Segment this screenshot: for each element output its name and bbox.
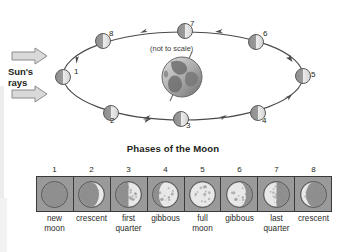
phase-label-8: crescent xyxy=(295,214,332,234)
phase-number: 6 xyxy=(221,164,258,175)
phase-label-1: new moon xyxy=(36,214,73,234)
phase-number: 5 xyxy=(184,164,221,175)
phase-number: 4 xyxy=(147,164,184,175)
phase-label-line1: last xyxy=(258,214,295,224)
phase-cell-6 xyxy=(221,177,258,211)
phase-label-2: crescent xyxy=(73,214,110,234)
moon-phase-icon-full xyxy=(189,181,216,208)
phase-cell-4 xyxy=(148,177,185,211)
sun-ray-arrow-top xyxy=(12,48,47,64)
phase-label-line1: gibbous xyxy=(221,214,258,224)
orbit-number-3: 3 xyxy=(186,121,190,130)
orbit-number-4: 4 xyxy=(262,116,266,125)
phase-cell-5 xyxy=(185,177,222,211)
phase-number: 2 xyxy=(73,164,110,175)
moon-phase-icon-new xyxy=(41,181,68,208)
moon-phase-icon-waxing-gibbous xyxy=(152,181,179,208)
phase-number: 8 xyxy=(295,164,332,175)
suns-rays-line-1: Sun's xyxy=(8,66,33,77)
phase-strip xyxy=(36,176,332,212)
moon-phase-icon-waning-crescent xyxy=(300,181,327,208)
phase-label-line2: moon xyxy=(36,224,73,234)
orbit-number-1: 1 xyxy=(74,67,78,76)
phase-label-5: full moon xyxy=(184,214,221,234)
orbit-moon-1 xyxy=(56,70,71,85)
orbit-moon-6 xyxy=(249,35,264,50)
suns-rays-label: Sun's rays xyxy=(8,66,33,88)
orbit-number-6: 6 xyxy=(263,29,267,38)
phase-label-3: first quarter xyxy=(110,214,147,234)
phase-cell-7 xyxy=(258,177,295,211)
moon-phase-icon-last-quarter xyxy=(263,181,290,208)
phase-label-line2: moon xyxy=(184,224,221,234)
moon-phases-figure: Sun's rays (not to scale) 1 2 3 4 5 6 7 … xyxy=(0,0,346,252)
phase-label-line1: crescent xyxy=(73,214,110,224)
moon-phase-icon-waxing-crescent xyxy=(78,181,105,208)
phase-number-row: 1 2 3 4 5 6 7 8 xyxy=(36,164,332,175)
phase-cell-1 xyxy=(37,177,74,211)
sun-ray-arrow-bottom xyxy=(12,86,47,102)
phase-label-row: new moon crescent first quarter gibbous … xyxy=(36,214,332,234)
orbit-number-2: 2 xyxy=(110,116,114,125)
earth-illustration xyxy=(162,52,202,101)
phase-label-line2: quarter xyxy=(110,224,147,234)
phase-label-line1: crescent xyxy=(295,214,332,224)
phase-label-line1: full xyxy=(184,214,221,224)
orbit-number-8: 8 xyxy=(109,29,113,38)
phase-label-line1: gibbous xyxy=(147,214,184,224)
phase-label-line1: new xyxy=(36,214,73,224)
page-title: Phases of the Moon xyxy=(0,143,346,154)
moon-phase-icon-first-quarter xyxy=(115,181,142,208)
phase-label-6: gibbous xyxy=(221,214,258,234)
orbit-moon-5 xyxy=(296,69,311,84)
phase-cell-3 xyxy=(111,177,148,211)
orbit-number-5: 5 xyxy=(311,70,315,79)
phase-number: 3 xyxy=(110,164,147,175)
orbit-number-7: 7 xyxy=(190,19,194,28)
phase-label-line2: quarter xyxy=(258,224,295,234)
phase-number: 7 xyxy=(258,164,295,175)
phase-label-7: last quarter xyxy=(258,214,295,234)
phase-label-line1: first xyxy=(110,214,147,224)
not-to-scale-note: (not to scale) xyxy=(150,44,193,53)
phase-cell-2 xyxy=(74,177,111,211)
moon-phase-icon-waning-gibbous xyxy=(226,181,253,208)
suns-rays-line-2: rays xyxy=(8,77,33,88)
phase-cell-8 xyxy=(295,177,331,211)
phase-number: 1 xyxy=(36,164,73,175)
phase-label-4: gibbous xyxy=(147,214,184,234)
